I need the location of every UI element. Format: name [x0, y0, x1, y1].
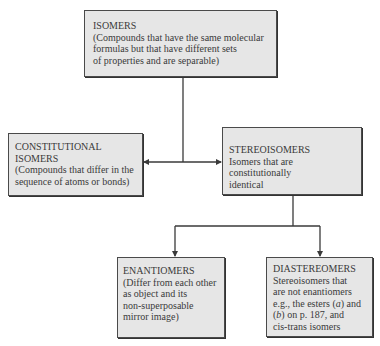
node-description: Isomers that are constitutionally identi… [229, 156, 355, 191]
node-title: CONSTITUTIONAL ISOMERS [15, 141, 136, 164]
node-title: DIASTEREOMERS [273, 263, 366, 275]
node-title: STEREOISOMERS [229, 144, 355, 156]
node-description: (Differ from each other as object and it… [123, 277, 218, 323]
node-title: ISOMERS [93, 20, 270, 32]
node-description: Stereoisomers that are not enantiomers e… [273, 275, 366, 333]
node-title: ENANTIOMERS [123, 265, 218, 277]
node-isomers: ISOMERS (Compounds that have the same mo… [84, 10, 277, 77]
desc-part: ) on p. 187, and cis-trans isomers [273, 309, 344, 332]
node-description: (Compounds that have the same molecular … [93, 32, 270, 67]
node-constitutional-isomers: CONSTITUTIONAL ISOMERS (Compounds that d… [8, 133, 143, 196]
node-description: (Compounds that differ in the sequence o… [15, 164, 136, 187]
node-enantiomers: ENANTIOMERS (Differ from each other as o… [117, 257, 225, 338]
node-stereoisomers: STEREOISOMERS Isomers that are constitut… [222, 127, 362, 195]
node-diastereomers: DIASTEREOMERS Stereoisomers that are not… [266, 257, 373, 337]
